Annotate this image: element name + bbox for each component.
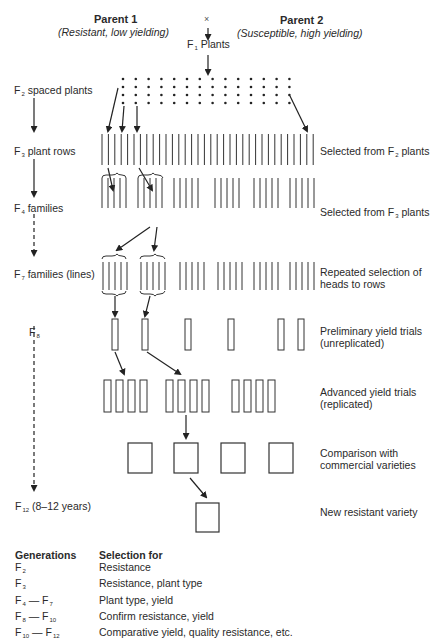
f3-plant-row-lines <box>102 134 313 165</box>
gen-b-sub: 7 <box>50 601 53 607</box>
legend-row: F10 — F12Comparative yield, quality resi… <box>15 626 293 642</box>
note-line-2: commercial varieties <box>320 459 416 471</box>
stage-note-new-variety: New resistant variety <box>320 506 417 518</box>
legend-rows: F2ResistanceF3Resistance, plant typeF4 —… <box>15 561 293 642</box>
parent1-title: Parent 1 <box>94 13 137 25</box>
legend-generation: F2 <box>15 561 99 577</box>
note-line-2: heads to rows <box>320 278 422 290</box>
legend-selection: Resistance, plant type <box>99 577 202 593</box>
select-arrow <box>117 227 150 250</box>
legend-generation: F8 — F10 <box>15 610 99 626</box>
legend-row: F8 — F10Confirm resistance, yield <box>15 610 293 626</box>
gen-a-sub: 3 <box>22 584 25 590</box>
note-line-2: (unreplicated) <box>320 337 422 349</box>
legend-row: F3Resistance, plant type <box>15 577 293 593</box>
gen-b: F <box>42 610 48 622</box>
generation-label-f7: F7 families (lines) <box>14 268 95 284</box>
gen-sub: 8 <box>36 333 39 339</box>
f7-family-line-groups <box>103 262 314 290</box>
legend-selection: Comparative yield, quality resistance, e… <box>99 626 293 642</box>
legend-row: F2Resistance <box>15 561 293 577</box>
select-arrow <box>147 352 180 374</box>
brace-f7-top-2 <box>140 254 165 259</box>
select-arrow <box>154 227 157 250</box>
parent1-subtitle: (Resistant, low yielding) <box>58 26 169 38</box>
stage-note-f3: Selected from F2 plants <box>320 145 429 161</box>
gen-a: F <box>15 561 21 573</box>
gen-prefix: F <box>15 500 21 512</box>
stage-note-advanced: Advanced yield trials(replicated) <box>320 386 416 410</box>
generation-label-f3: F3 plant rows <box>14 145 76 161</box>
f1-label-text: Plants <box>201 38 230 50</box>
generation-label-f8: F8 <box>29 326 40 342</box>
generation-label-f12: F12 (8–12 years) <box>15 500 91 516</box>
legend-generation: F4 — F7 <box>15 594 99 610</box>
legend-generation: F10 — F12 <box>15 626 99 642</box>
gen-prefix: F <box>14 268 20 280</box>
parent2-subtitle: (Susceptible, high yielding) <box>237 27 363 39</box>
select-arrow <box>122 106 124 131</box>
gen-b-sub: 10 <box>50 617 57 623</box>
gen-a: F <box>15 610 21 622</box>
brace-f7-top-1 <box>102 254 126 259</box>
gen-sub: 4 <box>21 209 24 215</box>
generation-label-f4: F4 families <box>14 202 63 218</box>
selection-legend: Generations Selection for F2ResistanceF3… <box>15 549 293 642</box>
gen-prefix: F <box>14 84 20 96</box>
legend-selection: Plant type, yield <box>99 594 173 610</box>
gen-text: plant rows <box>28 145 76 157</box>
gen-b: F <box>45 626 51 638</box>
new-variety-plot <box>196 503 219 532</box>
gen-a-sub: 2 <box>22 568 25 574</box>
gen-text: families (lines) <box>28 268 95 280</box>
select-arrow <box>145 296 150 316</box>
f2-spaced-plant-dots <box>122 78 291 105</box>
gen-b: F <box>42 594 48 606</box>
note-line-1: Comparison with <box>320 447 416 459</box>
legend-selection: Confirm resistance, yield <box>99 610 214 626</box>
gen-a: F <box>15 626 21 638</box>
generation-label-f2: F2 spaced plants <box>14 84 92 100</box>
stage-note-f4: Selected from F3 plants <box>320 206 429 222</box>
parent2-title: Parent 2 <box>280 14 323 26</box>
gen-prefix: F <box>14 202 20 214</box>
note-line-2: (replicated) <box>320 398 416 410</box>
gen-text: spaced plants <box>28 84 93 96</box>
gen-sub: 2 <box>21 91 24 97</box>
legend-col-generations: Generations <box>15 549 99 561</box>
note-text-end: plants <box>398 145 429 157</box>
gen-dash: — <box>26 594 42 606</box>
f1-plants-label: F1 Plants <box>187 38 230 54</box>
stage-note-comparison: Comparison withcommercial varieties <box>320 447 416 471</box>
brace-f4-1 <box>102 173 126 178</box>
cross-symbol: × <box>204 13 209 25</box>
legend-selection: Resistance <box>99 561 151 577</box>
note-line-1: Advanced yield trials <box>320 386 416 398</box>
note-line-1: Repeated selection of <box>320 266 422 278</box>
gen-dash: — <box>26 610 42 622</box>
gen-a: F <box>15 577 21 589</box>
select-arrow <box>190 478 206 497</box>
select-arrow <box>115 352 124 374</box>
stage-note-f8: Preliminary yield trials(unreplicated) <box>320 325 422 349</box>
note-line-1: New resistant variety <box>320 506 417 518</box>
stage-note-f7: Repeated selection ofheads to rows <box>320 266 422 290</box>
brace-f7-bottom-1 <box>102 291 126 296</box>
f1-prefix: F <box>187 38 193 50</box>
gen-dash: — <box>29 626 45 638</box>
note-text: Selected from F <box>320 206 394 218</box>
legend-generation: F3 <box>15 577 99 593</box>
legend-col-selection: Selection for <box>99 549 163 561</box>
gen-sub: 12 <box>22 507 29 513</box>
select-arrow <box>290 96 307 131</box>
select-arrow <box>108 168 113 190</box>
advanced-trial-plots <box>104 380 275 412</box>
gen-text: families <box>28 202 64 214</box>
gen-sub: 3 <box>21 152 24 158</box>
commercial-comparison-plots <box>128 443 293 473</box>
f4-family-line-groups <box>102 178 314 208</box>
brace-f7-bottom-2 <box>140 291 165 296</box>
f1-sub: 1 <box>194 45 197 51</box>
gen-prefix: F <box>14 145 20 157</box>
gen-text: (8–12 years) <box>32 500 91 512</box>
